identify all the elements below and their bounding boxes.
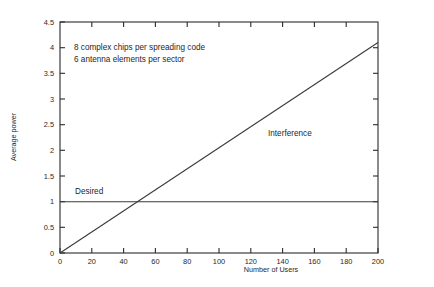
x-axis-label: Number of Users [244, 265, 299, 274]
annotation-line-1: 8 complex chips per spreading code [74, 43, 206, 52]
x-tick-label-80: 80 [183, 257, 191, 266]
x-tick-label-100: 100 [213, 257, 225, 266]
y-axis-ticks [60, 22, 65, 253]
y-tick-label-4: 4 [50, 43, 54, 52]
series-line-interference [60, 43, 378, 254]
y-tick-label-1-5: 1.5 [44, 172, 54, 181]
x-tick-label-60: 60 [151, 257, 159, 266]
y-tick-label-0-5: 0.5 [44, 223, 54, 232]
series-label-desired: Desired [75, 187, 104, 196]
y-tick-label-2-5: 2.5 [44, 120, 54, 129]
x-axis-ticks-top [92, 22, 346, 27]
y-tick-label-1: 1 [50, 197, 54, 206]
x-tick-label-200: 200 [372, 257, 384, 266]
y-axis-ticks-right [373, 48, 378, 228]
y-tick-label-3-5: 3.5 [44, 69, 54, 78]
chart-canvas: 0 0.5 1 1.5 2 2.5 3 3.5 4 4.5 0 20 40 60… [0, 0, 434, 287]
annotation-line-2: 6 antenna elements per sector [74, 55, 185, 64]
y-tick-label-2: 2 [50, 146, 54, 155]
x-tick-label-160: 160 [308, 257, 320, 266]
y-tick-label-4-5: 4.5 [44, 18, 54, 27]
x-tick-label-180: 180 [340, 257, 352, 266]
series-label-interference: Interference [268, 129, 312, 138]
x-tick-label-40: 40 [119, 257, 127, 266]
x-tick-label-20: 20 [88, 257, 96, 266]
y-axis-label: Average power [9, 112, 18, 161]
x-tick-label-0: 0 [58, 257, 62, 266]
chart-figure: 0 0.5 1 1.5 2 2.5 3 3.5 4 4.5 0 20 40 60… [0, 0, 434, 287]
x-axis-ticks [60, 248, 378, 253]
y-tick-label-3: 3 [50, 95, 54, 104]
y-tick-label-0: 0 [50, 249, 54, 258]
